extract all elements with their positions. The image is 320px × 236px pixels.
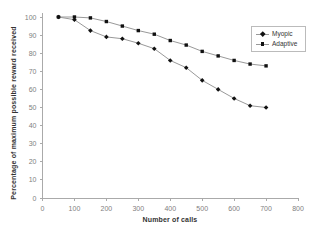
svg-text:100: 100 [69, 205, 81, 212]
legend-entry-adaptive: Adaptive [256, 40, 303, 48]
svg-text:0: 0 [41, 205, 45, 212]
svg-text:90: 90 [29, 32, 37, 39]
svg-text:100: 100 [25, 14, 37, 21]
chart-figure: 0100200300400500600700800010203040506070… [0, 0, 320, 236]
svg-text:10: 10 [29, 176, 37, 183]
legend: Myopic Adaptive [251, 26, 306, 52]
svg-text:20: 20 [29, 158, 37, 165]
svg-text:500: 500 [196, 205, 208, 212]
svg-text:80: 80 [29, 50, 37, 57]
adaptive-key [256, 41, 269, 47]
svg-text:50: 50 [29, 104, 37, 111]
y-axis-title: Percentage of maximum possible reward re… [10, 26, 17, 199]
svg-text:300: 300 [132, 205, 144, 212]
svg-text:600: 600 [228, 205, 240, 212]
svg-text:0: 0 [33, 195, 37, 202]
myopic-diamond-marker-icon [260, 31, 265, 36]
adaptive-square-marker-icon [261, 42, 265, 46]
legend-entry-myopic: Myopic [256, 30, 303, 38]
svg-text:70: 70 [29, 68, 37, 75]
legend-label-myopic: Myopic [272, 30, 293, 38]
myopic-key [256, 31, 269, 37]
legend-label-adaptive: Adaptive [272, 40, 297, 48]
svg-text:30: 30 [29, 140, 37, 147]
svg-text:200: 200 [101, 205, 113, 212]
svg-text:700: 700 [260, 205, 272, 212]
svg-text:400: 400 [164, 205, 176, 212]
svg-text:800: 800 [292, 205, 304, 212]
x-axis-title: Number of calls [143, 216, 198, 223]
svg-text:60: 60 [29, 86, 37, 93]
svg-text:40: 40 [29, 122, 37, 129]
